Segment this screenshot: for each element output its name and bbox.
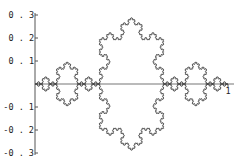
y-tick-label: 0 . 2 [8,33,34,43]
y-tick-label: -0 . 2 [3,125,34,135]
y-tick-label: -0 . 1 [3,102,34,112]
x-ticks: 1 [225,84,230,96]
y-tick-label: 0 . 3 [8,10,34,20]
y-tick-label: 0 . 1 [8,56,34,66]
y-ticks: 0 . 30 . 20 . 1-0 . 1-0 . 2-0 . 3 [3,10,38,158]
fractal-chart: 0 . 30 . 20 . 1-0 . 1-0 . 2-0 . 3 1 [0,0,242,164]
lower-fractal-curve [35,84,228,150]
y-axis: 0 . 30 . 20 . 1-0 . 1-0 . 2-0 . 3 [3,10,38,158]
upper-fractal-curve [35,18,228,84]
x-tick-label: 1 [225,86,230,96]
y-tick-label: -0 . 3 [3,148,34,158]
